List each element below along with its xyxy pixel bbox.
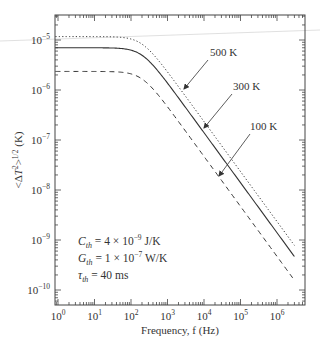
annotation-label: 300 K (233, 80, 260, 92)
x-tick-label: 105 (233, 308, 248, 322)
annotation-arrow-icon (219, 134, 250, 176)
x-axis-tick-labels: 100101102103104105106 (51, 308, 285, 322)
x-tick-label: 102 (124, 308, 139, 322)
x-axis-title: Frequency, f (Hz) (141, 324, 219, 337)
parameter-line: τth = 40 ms (78, 269, 129, 284)
y-tick-label: 10−10 (27, 282, 50, 296)
parameter-line: Cth = 4 × 10−9 J/K (78, 233, 161, 250)
y-tick-label: 10−9 (31, 232, 50, 246)
annotation-layer: 500 K300 K100 K (184, 46, 277, 176)
annotation-label: 100 K (250, 120, 277, 132)
series-500k (55, 37, 294, 246)
parameter-box: Cth = 4 × 10−9 J/KGth = 1 × 10−7 W/Kτth … (78, 233, 168, 284)
x-tick-label: 101 (87, 308, 102, 322)
y-tick-label: 10−5 (31, 32, 50, 46)
thermal-noise-chart: 100101102103104105106 10−510−610−710−810… (0, 0, 320, 355)
y-tick-label: 10−6 (31, 82, 50, 96)
annotation-arrow-icon (184, 60, 208, 89)
x-tick-label: 100 (51, 308, 66, 322)
svg-text:<ΔT2>1/2 (K): <ΔT2>1/2 (K) (11, 131, 25, 188)
x-tick-label: 104 (197, 308, 212, 322)
annotation-label: 500 K (210, 46, 237, 58)
y-tick-label: 10−8 (31, 182, 50, 196)
y-axis-title: <ΔT2>1/2 (K) (11, 131, 25, 188)
y-axis-tick-labels: 10−510−610−710−810−910−10 (27, 32, 50, 296)
parameter-line: Gth = 1 × 10−7 W/K (78, 250, 168, 267)
x-tick-label: 106 (270, 308, 285, 322)
y-tick-label: 10−7 (31, 132, 50, 146)
annotation-arrow-icon (204, 94, 232, 128)
x-tick-label: 103 (160, 308, 175, 322)
